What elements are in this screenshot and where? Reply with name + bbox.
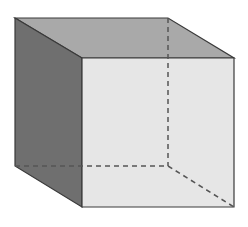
cube-front-face [82, 58, 234, 207]
cube-diagram [0, 0, 248, 227]
cube-drawing [0, 0, 248, 227]
